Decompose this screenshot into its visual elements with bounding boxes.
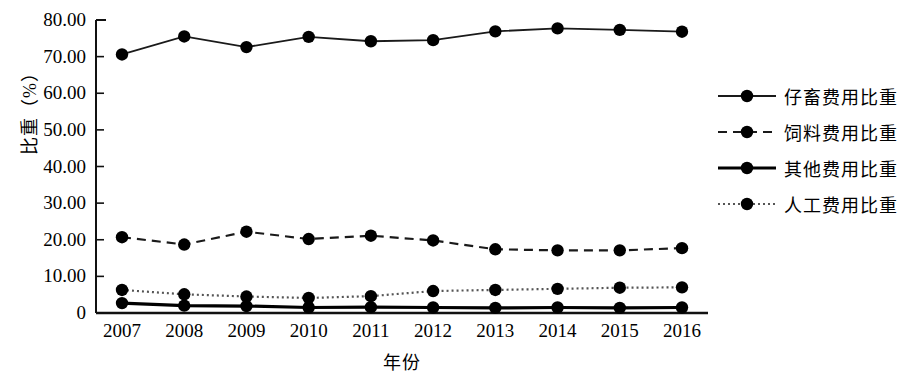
series-line-3 [122,303,682,308]
x-tick-label: 2016 [647,320,717,342]
axis-lines [96,20,708,313]
x-tick-label: 2010 [274,320,344,342]
legend-marker-icon [716,122,778,142]
legend-label: 其他费用比重 [778,155,898,181]
legend-dot [741,162,753,174]
data-point [427,285,439,297]
data-point [116,297,128,309]
data-point [551,244,563,256]
data-point [614,24,626,36]
data-point [551,22,563,34]
data-point [240,41,252,53]
data-point [551,301,563,313]
data-point [427,234,439,246]
data-point [676,301,688,313]
data-point [489,302,501,314]
chart-legend: 仔畜费用比重饲料费用比重其他费用比重人工费用比重 [716,78,908,222]
legend-item[interactable]: 仔畜费用比重 [716,78,908,114]
data-point [178,288,190,300]
legend-label: 人工费用比重 [778,191,898,217]
legend-dot [741,126,753,138]
data-point [365,301,377,313]
data-point [302,31,314,43]
data-point [489,284,501,296]
series-line-1 [122,28,682,54]
x-tick-label: 2012 [398,320,468,342]
data-point [551,283,563,295]
data-point [302,233,314,245]
x-tick-label: 2009 [211,320,281,342]
data-point [240,290,252,302]
legend-item[interactable]: 其他费用比重 [716,150,908,186]
x-tick-label: 2013 [460,320,530,342]
data-point [178,238,190,250]
data-point [302,292,314,304]
data-point [489,25,501,37]
series-line-2 [122,232,682,251]
legend-label: 仔畜费用比重 [778,83,898,109]
legend-label: 饲料费用比重 [778,119,898,145]
legend-dot [741,198,753,210]
data-point [614,302,626,314]
legend-dot [741,90,753,102]
legend-marker-icon [716,194,778,214]
legend-marker-icon [716,158,778,178]
line-chart: 比重（%） 010.0020.0030.0040.0050.0060.0070.… [0,0,909,378]
x-axis-tick-labels: 2007200820092010201120122013201420152016 [96,320,708,346]
legend-item[interactable]: 人工费用比重 [716,186,908,222]
series-line-4 [122,287,682,298]
data-point [489,243,501,255]
x-tick-label: 2014 [523,320,593,342]
data-point [676,26,688,38]
x-tick-label: 2007 [87,320,157,342]
data-point [614,282,626,294]
data-point [116,231,128,243]
x-tick-label: 2008 [149,320,219,342]
data-point [178,299,190,311]
series-group [116,22,688,314]
data-point [178,30,190,42]
data-point [116,48,128,60]
x-tick-label: 2011 [336,320,406,342]
data-point [427,301,439,313]
data-point [614,244,626,256]
data-point [676,281,688,293]
data-point [365,230,377,242]
data-point [676,242,688,254]
legend-item[interactable]: 饲料费用比重 [716,114,908,150]
data-point [365,290,377,302]
x-tick-label: 2015 [585,320,655,342]
data-point [427,34,439,46]
legend-marker-icon [716,86,778,106]
data-point [116,284,128,296]
data-point [365,35,377,47]
x-axis-title: 年份 [96,348,708,374]
data-point [240,225,252,237]
